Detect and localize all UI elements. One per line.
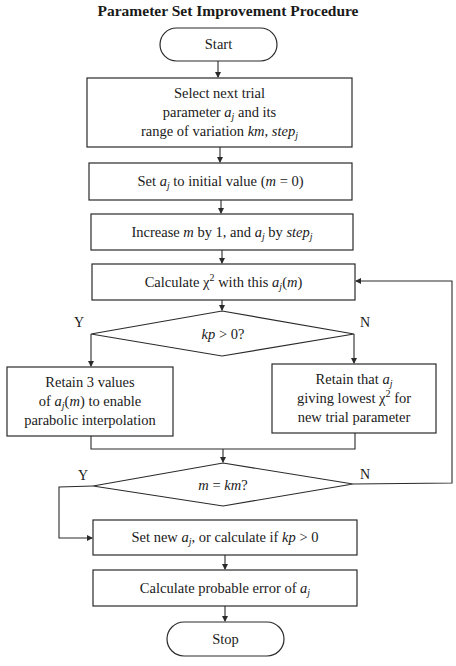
- start-label: Start: [160, 28, 277, 61]
- set-initial-label: Set aj to initial value (m = 0): [89, 163, 352, 200]
- diagram-title: Parameter Set Improvement Procedure: [0, 2, 456, 20]
- set-new-label: Set new aj, or calculate if kp > 0: [93, 520, 357, 555]
- select-line-1: Select next trial: [174, 84, 265, 103]
- select-line-3: range of variation km, stepj: [141, 122, 298, 141]
- no-label-m: N: [360, 467, 370, 483]
- decision-kp-label: kp > 0?: [150, 322, 296, 346]
- no-label-kp: N: [360, 315, 370, 331]
- probable-error-label: Calculate probable error of aj: [93, 570, 357, 606]
- start-text: Start: [205, 35, 232, 54]
- calc-chi-label: Calculate χ2 with this aj(m): [92, 264, 355, 300]
- retain-lowest-label: Retain that aj giving lowest χ2 for new …: [272, 364, 436, 433]
- increase-m-label: Increase m by 1, and aj by stepj: [91, 214, 353, 250]
- decision-m-label: m = km?: [150, 473, 296, 497]
- select-parameter-label: Select next trial parameter aj and its r…: [87, 78, 352, 147]
- stop-label: Stop: [167, 622, 284, 656]
- yes-label-m: Y: [78, 468, 88, 484]
- stop-text: Stop: [212, 630, 239, 649]
- retain-three-label: Retain 3 values of aj(m) to enable parab…: [7, 367, 173, 436]
- yes-label-kp: Y: [74, 315, 84, 331]
- select-line-2: parameter aj and its: [163, 103, 277, 122]
